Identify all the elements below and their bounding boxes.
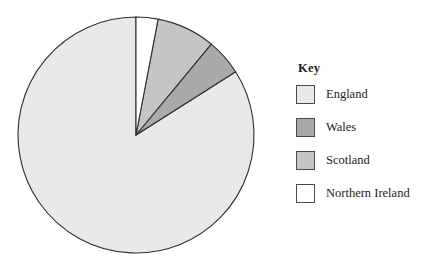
chart-legend: Key England Wales Scotland Northern Irel… bbox=[296, 62, 443, 205]
legend-item-northern-ireland: Northern Ireland bbox=[296, 183, 443, 205]
pie-chart-figure: Key England Wales Scotland Northern Irel… bbox=[0, 0, 443, 268]
legend-swatch-northern-ireland bbox=[296, 184, 315, 203]
legend-label-england: England bbox=[326, 88, 368, 101]
legend-label-wales: Wales bbox=[326, 121, 356, 134]
legend-label-scotland: Scotland bbox=[326, 154, 370, 167]
pie-slice-group bbox=[18, 17, 254, 253]
legend-item-wales: Wales bbox=[296, 117, 443, 139]
legend-swatch-wales bbox=[296, 118, 315, 137]
legend-swatch-england bbox=[296, 85, 315, 104]
pie-chart-area bbox=[0, 0, 280, 268]
legend-item-england: England bbox=[296, 84, 443, 106]
legend-label-northern-ireland: Northern Ireland bbox=[326, 187, 410, 200]
pie-chart-svg bbox=[0, 0, 280, 268]
legend-item-scotland: Scotland bbox=[296, 150, 443, 172]
legend-swatch-scotland bbox=[296, 151, 315, 170]
legend-title: Key bbox=[298, 62, 443, 75]
